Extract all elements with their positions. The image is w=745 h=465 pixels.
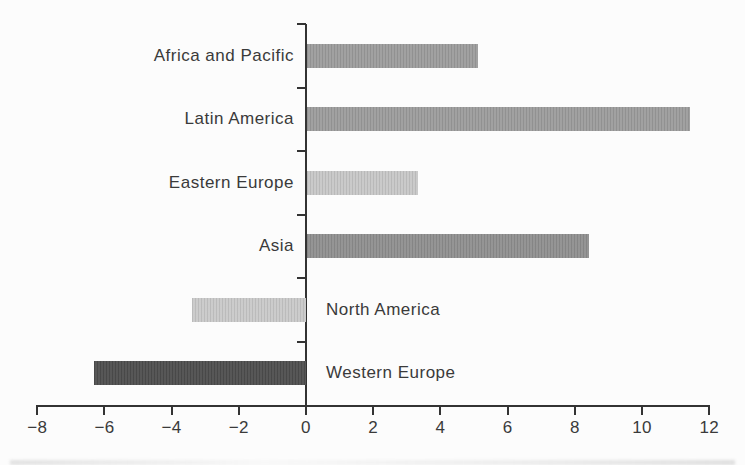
x-tick-label: 6	[503, 418, 513, 438]
category-label-africa-and-pacific: Africa and Pacific	[154, 44, 294, 68]
x-tick-label: 0	[301, 418, 311, 438]
x-tick-label: 2	[368, 418, 378, 438]
x-tick-label: −2	[229, 418, 249, 438]
y-axis-tick	[297, 87, 306, 89]
x-axis-tick	[238, 405, 240, 415]
x-axis-tick	[439, 405, 441, 415]
x-axis-tick	[171, 405, 173, 415]
x-axis-tick	[36, 405, 38, 415]
x-tick-label: 8	[570, 418, 580, 438]
x-axis-tick	[641, 405, 643, 415]
y-axis-tick	[297, 214, 306, 216]
bar-north-america	[192, 298, 306, 322]
x-axis-tick	[372, 405, 374, 415]
x-tick-label: 10	[632, 418, 652, 438]
x-tick-label: −6	[94, 418, 114, 438]
bar-eastern-europe	[307, 171, 418, 195]
bar-western-europe	[94, 361, 306, 385]
x-axis-tick	[103, 405, 105, 415]
x-tick-label: 12	[699, 418, 719, 438]
x-tick-label: 4	[436, 418, 446, 438]
x-axis-tick	[507, 405, 509, 415]
x-tick-label: −4	[162, 418, 182, 438]
bar-latin-america	[307, 107, 690, 131]
y-axis-tick	[297, 277, 306, 279]
bar-chart: −8−6−4−2024681012Africa and PacificLatin…	[0, 0, 745, 465]
x-axis-tick	[708, 405, 710, 415]
category-label-western-europe: Western Europe	[326, 361, 456, 385]
bar-africa-and-pacific	[307, 44, 478, 68]
category-label-latin-america: Latin America	[185, 107, 295, 131]
category-label-asia: Asia	[259, 234, 294, 258]
y-axis-tick	[297, 341, 306, 343]
category-label-eastern-europe: Eastern Europe	[169, 171, 294, 195]
category-label-north-america: North America	[326, 298, 440, 322]
x-axis-tick	[305, 405, 307, 415]
scan-edge-artifact	[10, 460, 735, 465]
y-axis-tick	[297, 150, 306, 152]
x-tick-label: −8	[27, 418, 47, 438]
bar-asia	[307, 234, 589, 258]
y-axis-tick	[297, 23, 306, 25]
x-axis-tick	[574, 405, 576, 415]
